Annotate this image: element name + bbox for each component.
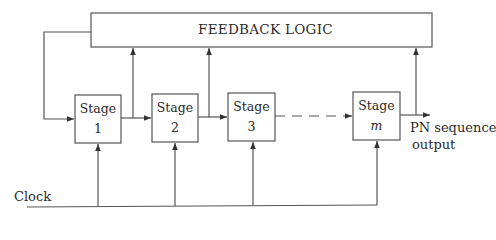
stage-3-title: Stage bbox=[228, 101, 275, 114]
clock-label: Clock bbox=[14, 190, 51, 203]
stage-1-title: Stage bbox=[75, 103, 121, 116]
output-label-line1: PN sequence bbox=[410, 121, 496, 134]
stage-2-title: Stage bbox=[152, 102, 198, 115]
stage-2-index: 2 bbox=[152, 122, 198, 135]
clock-line bbox=[27, 205, 377, 207]
stage-3-index: 3 bbox=[228, 121, 275, 134]
stage-m-index: m bbox=[353, 120, 400, 133]
output-label-line2: output bbox=[412, 138, 455, 151]
feedback-logic-label: FEEDBACK LOGIC bbox=[198, 23, 333, 37]
stage-1-index: 1 bbox=[75, 123, 121, 136]
stage-m-title: Stage bbox=[353, 100, 400, 113]
